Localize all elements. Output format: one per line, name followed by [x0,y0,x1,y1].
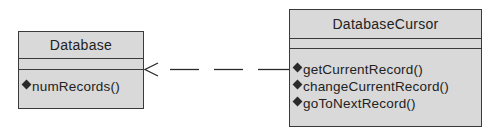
class-name: Database [19,32,143,58]
class-database-cursor[interactable]: DatabaseCursor getCurrentRecord() change… [289,9,482,127]
class-database[interactable]: Database numRecords() [18,31,144,109]
class-name: DatabaseCursor [290,10,481,38]
operation-label: getCurrentRecord() [303,63,423,77]
operation: getCurrentRecord() [292,63,481,77]
operation: numRecords() [21,80,143,94]
public-operation-diamond-icon [293,97,303,107]
public-operation-diamond-icon [293,80,303,90]
operation-label: goToNextRecord() [303,97,416,111]
operation-label: numRecords() [32,80,120,94]
operation: goToNextRecord() [292,97,481,111]
attributes-compartment [290,38,481,48]
attributes-compartment [19,58,143,69]
operation-label: changeCurrentRecord() [303,80,449,94]
public-operation-diamond-icon [22,80,32,90]
operations-compartment: getCurrentRecord() changeCurrentRecord()… [290,48,481,111]
operations-compartment: numRecords() [19,69,143,94]
operation: changeCurrentRecord() [292,80,481,94]
open-arrowhead-icon [145,63,158,76]
public-operation-diamond-icon [293,63,303,73]
